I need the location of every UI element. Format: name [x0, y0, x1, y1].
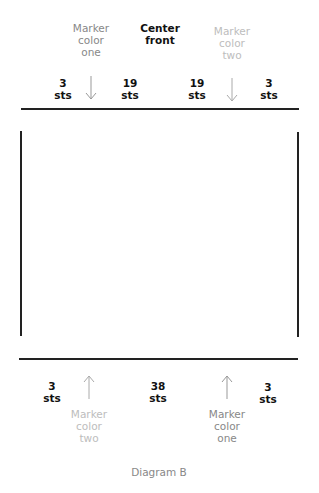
- top-count-19-a: 19 sts: [121, 77, 139, 101]
- left-edge-line: [20, 131, 22, 336]
- bottom-count-left-3: 3 sts: [43, 380, 61, 404]
- up-arrow-icon: [83, 375, 95, 399]
- top-count-left-3: 3 sts: [54, 77, 72, 101]
- top-marker-color-two-label: Marker color two: [214, 25, 250, 61]
- up-arrow-icon: [221, 375, 233, 399]
- bottom-count-38: 38 sts: [149, 380, 167, 404]
- center-front-label: Center front: [140, 22, 180, 46]
- bottom-marker-color-one-label: Marker color one: [209, 408, 245, 444]
- top-count-right-3: 3 sts: [260, 77, 278, 101]
- bottom-count-right-3: 3 sts: [259, 381, 277, 405]
- top-edge-line: [21, 108, 299, 110]
- right-edge-line: [297, 132, 299, 337]
- bottom-marker-color-two-label: Marker color two: [71, 408, 107, 444]
- top-count-19-b: 19 sts: [188, 77, 206, 101]
- down-arrow-icon: [85, 76, 97, 101]
- diagram-caption: Diagram B: [131, 466, 187, 478]
- bottom-edge-line: [19, 358, 298, 360]
- down-arrow-icon: [226, 78, 238, 103]
- top-marker-color-one-label: Marker color one: [73, 22, 109, 58]
